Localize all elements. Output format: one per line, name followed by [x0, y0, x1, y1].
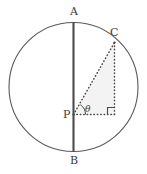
vertex-label-a: A [70, 6, 78, 17]
vertex-label-c: C [110, 27, 118, 38]
point-marker-C [113, 41, 115, 43]
geometry-diagram-svg [0, 0, 147, 174]
vertex-label-b: B [70, 155, 78, 166]
geometry-figure: A B C P θ [0, 0, 147, 174]
point-marker-P [72, 113, 74, 115]
angle-label-theta: θ [85, 105, 90, 114]
vertex-label-p: P [63, 109, 70, 120]
